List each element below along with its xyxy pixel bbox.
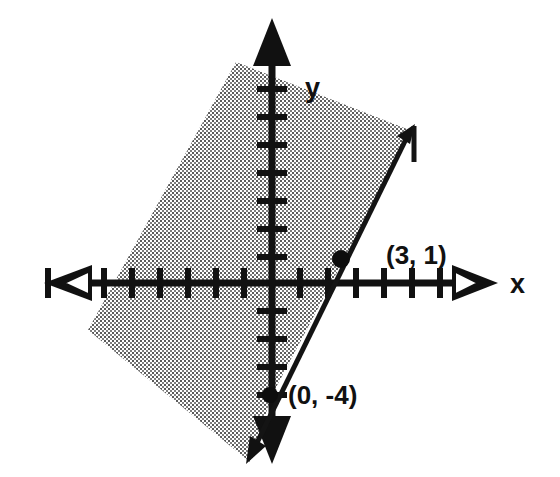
coordinate-label-lower: (0, -4) (288, 380, 357, 410)
coordinate-label-upper: (3, 1) (386, 240, 447, 270)
coordinate-plane-svg: x y (3, 1) (0, -4) (0, 0, 560, 477)
y-axis-label: y (305, 73, 320, 103)
x-axis-right-arrowhead-icon (452, 265, 498, 301)
shaded-solution-region (88, 62, 412, 462)
point-marker-0-minus4 (262, 387, 278, 403)
x-axis-label: x (510, 269, 525, 299)
point-marker-3-1 (332, 250, 350, 268)
inequality-graph-figure: x y (3, 1) (0, -4) (0, 0, 560, 477)
y-axis-up-arrowhead-icon (253, 18, 291, 66)
x-axis-left-arrowhead-icon (44, 265, 92, 301)
x-axis-ticks (48, 268, 440, 298)
